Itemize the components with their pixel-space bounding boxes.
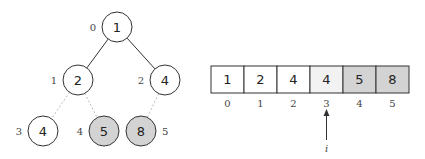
node-index-label: 5 <box>162 126 168 137</box>
array-representation: 102142435485 <box>211 66 409 109</box>
tree-node: 42 <box>138 65 180 95</box>
node-value: 5 <box>100 124 108 139</box>
node-value: 8 <box>137 124 145 139</box>
tree-node: 43 <box>16 116 58 146</box>
tree-edge-solid <box>87 39 108 68</box>
tree-node: 21 <box>51 65 93 95</box>
tree-nodes: 102142435485 <box>16 12 180 146</box>
array-cell: 85 <box>376 66 409 109</box>
array-cell-value: 5 <box>355 72 363 87</box>
array-cell: 21 <box>244 66 277 109</box>
array-index-label: 1 <box>257 98 263 109</box>
tree-edge-dotted <box>147 94 158 118</box>
array-cell-value: 2 <box>256 72 264 87</box>
node-index-label: 2 <box>138 75 144 86</box>
node-value: 4 <box>161 73 169 88</box>
node-index-label: 0 <box>90 22 96 33</box>
array-cell-value: 8 <box>388 72 396 87</box>
array-cell-value: 1 <box>223 72 231 87</box>
tree-node: 85 <box>126 116 168 146</box>
tree-edge-dotted <box>85 93 97 117</box>
node-index-label: 4 <box>77 126 83 137</box>
array-cell: 10 <box>211 66 244 109</box>
tree-edge-dotted <box>51 92 69 118</box>
node-value: 2 <box>74 73 82 88</box>
pointer-label: i <box>325 143 328 154</box>
tree-node: 10 <box>90 12 132 42</box>
arrow-up-icon <box>324 109 330 116</box>
pointer-arrow: i <box>324 109 330 154</box>
array-cell: 42 <box>277 66 310 109</box>
heap-diagram: 102142435485 102142435485 i <box>0 0 425 159</box>
node-index-label: 1 <box>51 75 57 86</box>
node-index-label: 3 <box>16 126 22 137</box>
array-cell-value: 4 <box>322 72 330 87</box>
array-cell: 54 <box>343 66 376 109</box>
node-value: 1 <box>113 20 121 35</box>
array-index-label: 5 <box>389 98 395 109</box>
tree-node: 54 <box>77 116 119 146</box>
array-index-label: 2 <box>290 98 296 109</box>
array-cell-value: 4 <box>289 72 297 87</box>
tree-edge-solid <box>127 38 155 69</box>
array-index-label: 0 <box>224 98 230 109</box>
array-index-label: 4 <box>356 98 362 109</box>
array-cell: 43 <box>310 66 343 109</box>
array-index-label: 3 <box>323 98 329 109</box>
node-value: 4 <box>39 124 47 139</box>
